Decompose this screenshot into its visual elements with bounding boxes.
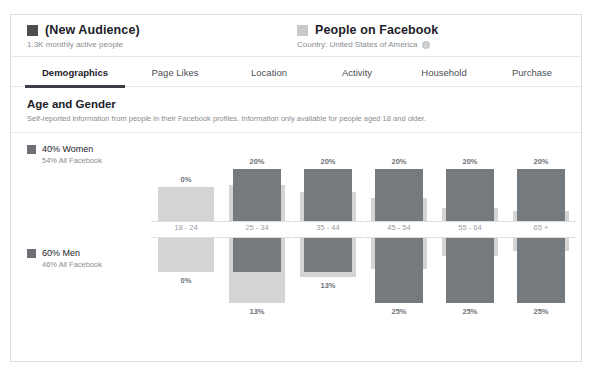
women-value-label: 20% [222, 157, 292, 166]
men-audience-bar[interactable] [233, 238, 281, 272]
facebook-subtitle: Country: United States of America [297, 40, 418, 49]
men-value-label: 13% [222, 307, 292, 316]
tab-location-label: Location [251, 67, 287, 78]
women-audience-bar[interactable] [304, 169, 352, 221]
age-group-column: 0%18 - 240% [151, 133, 221, 338]
age-group-column: 20%65 +25% [506, 133, 576, 338]
age-group-label: 25 - 34 [222, 223, 292, 232]
legend-women-swatch-icon [27, 145, 36, 154]
women-bar-group [364, 133, 434, 221]
tab-bar: Demographics Page Likes Location Activit… [11, 57, 581, 87]
facebook-summary: People on Facebook Country: United State… [297, 23, 438, 49]
facebook-swatch-icon [297, 25, 308, 36]
section-title: Age and Gender [27, 98, 565, 110]
legend-men: 60% Men 46% All Facebook [27, 248, 102, 269]
men-audience-bar[interactable] [446, 238, 494, 303]
audience-swatch-icon [27, 25, 38, 36]
men-value-label: 25% [435, 307, 505, 316]
audience-title: (New Audience) [45, 23, 140, 37]
legend-women-label: 40% Women [42, 144, 93, 154]
legend-women: 40% Women 54% All Facebook [27, 144, 102, 165]
audience-subtitle: 1.3K monthly active people [27, 40, 123, 49]
tab-page-likes[interactable]: Page Likes [133, 57, 217, 87]
men-benchmark-bar[interactable] [158, 238, 214, 272]
column-divider [435, 221, 505, 222]
age-gender-chart: 40% Women 54% All Facebook 60% Men 46% A… [11, 133, 581, 338]
age-group-label: 18 - 24 [151, 223, 221, 232]
women-value-label: 20% [506, 157, 576, 166]
age-group-column: 20%45 - 5425% [364, 133, 434, 338]
age-group-column: 20%35 - 4413% [293, 133, 363, 338]
legend-men-label: 60% Men [42, 248, 80, 258]
women-audience-bar[interactable] [375, 169, 423, 221]
tab-activity[interactable]: Activity [319, 57, 395, 87]
facebook-title: People on Facebook [315, 23, 438, 37]
tab-household[interactable]: Household [403, 57, 485, 87]
men-value-label: 25% [506, 307, 576, 316]
men-bar-group [364, 238, 434, 338]
age-group-column: 20%25 - 3413% [222, 133, 292, 338]
tab-activity-label: Activity [342, 67, 372, 78]
men-bar-group [151, 238, 221, 338]
men-audience-bar[interactable] [517, 238, 565, 303]
women-value-label: 0% [151, 175, 221, 184]
age-group-column: 20%55 - 6425% [435, 133, 505, 338]
women-bar-group [435, 133, 505, 221]
women-audience-bar[interactable] [233, 169, 281, 221]
women-bar-group [222, 133, 292, 221]
men-audience-bar[interactable] [375, 238, 423, 303]
women-bar-group [506, 133, 576, 221]
women-benchmark-bar[interactable] [158, 187, 214, 221]
audience-insights-card: (New Audience) 1.3K monthly active peopl… [10, 14, 582, 362]
info-icon[interactable]: i [422, 41, 430, 49]
column-divider [151, 221, 221, 222]
column-divider [293, 221, 363, 222]
age-and-gender-section: Age and Gender Self-reported information… [11, 87, 581, 133]
legend-women-benchmark: 54% All Facebook [42, 156, 102, 165]
tab-demographics[interactable]: Demographics [25, 57, 125, 87]
age-group-label: 35 - 44 [293, 223, 363, 232]
facebook-subtitle-row: Country: United States of America i [297, 40, 438, 49]
tab-purchase[interactable]: Purchase [493, 57, 571, 87]
legend-men-benchmark: 46% All Facebook [42, 260, 102, 269]
tab-page-likes-label: Page Likes [151, 67, 198, 78]
men-audience-bar[interactable] [304, 238, 352, 272]
women-value-label: 20% [435, 157, 505, 166]
audience-summary: (New Audience) 1.3K monthly active peopl… [27, 23, 140, 49]
women-value-label: 20% [364, 157, 434, 166]
men-bar-group [506, 238, 576, 338]
column-divider [506, 221, 576, 222]
women-value-label: 20% [293, 157, 363, 166]
men-value-label: 0% [151, 276, 221, 285]
legend-men-swatch-icon [27, 249, 36, 258]
women-bar-group [293, 133, 363, 221]
card-header: (New Audience) 1.3K monthly active peopl… [11, 15, 581, 57]
chart-plot-area: 0%18 - 240%20%25 - 3413%20%35 - 4413%20%… [151, 133, 573, 338]
age-group-label: 45 - 54 [364, 223, 434, 232]
age-group-label: 55 - 64 [435, 223, 505, 232]
tab-purchase-label: Purchase [512, 67, 552, 78]
column-divider [222, 221, 292, 222]
men-value-label: 13% [293, 281, 363, 290]
audience-subtitle-row: 1.3K monthly active people [27, 40, 140, 49]
age-group-label: 65 + [506, 223, 576, 232]
tab-household-label: Household [421, 67, 466, 78]
tab-location[interactable]: Location [229, 57, 309, 87]
men-bar-group [435, 238, 505, 338]
tab-demographics-label: Demographics [42, 67, 108, 78]
men-bar-group [222, 238, 292, 338]
women-audience-bar[interactable] [446, 169, 494, 221]
women-audience-bar[interactable] [517, 169, 565, 221]
column-divider [364, 221, 434, 222]
men-value-label: 25% [364, 307, 434, 316]
section-subtitle: Self-reported information from people in… [27, 114, 565, 123]
